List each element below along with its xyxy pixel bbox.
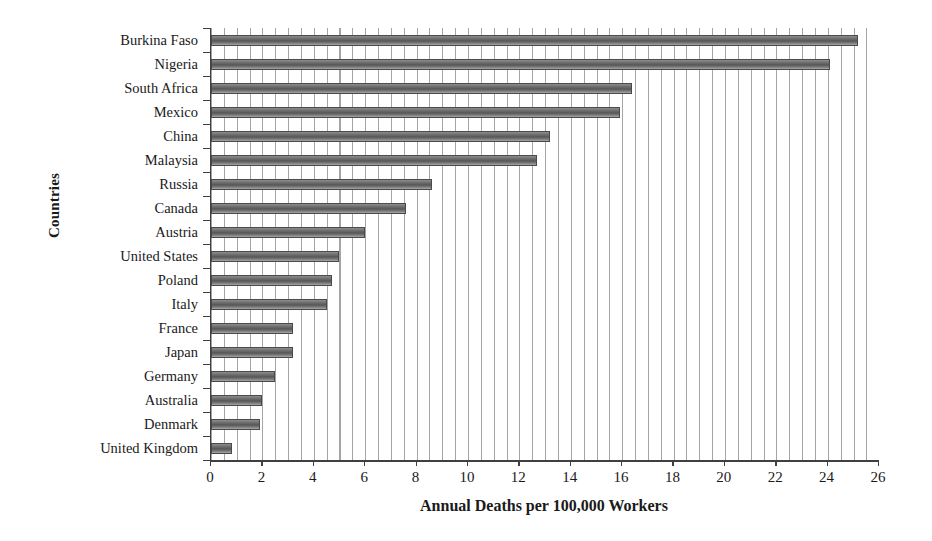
bar xyxy=(211,227,365,238)
y-axis-tick-label: China xyxy=(62,124,205,148)
bar xyxy=(211,275,332,286)
bar-row xyxy=(211,244,879,268)
y-axis-tick-label: Canada xyxy=(62,196,205,220)
y-axis-tick xyxy=(203,76,210,77)
bar-row xyxy=(211,100,879,124)
x-axis-tick-label: 6 xyxy=(360,467,368,487)
y-axis-tick xyxy=(203,436,210,437)
x-axis-tick xyxy=(775,460,776,466)
y-axis-tick-label: Australia xyxy=(62,388,205,412)
bar-row xyxy=(211,148,879,172)
y-axis-tick xyxy=(203,388,210,389)
bar xyxy=(211,155,537,166)
x-axis-tick-label: 20 xyxy=(716,467,731,487)
x-axis-tick xyxy=(827,460,828,466)
y-axis-tick-label: Nigeria xyxy=(62,52,205,76)
y-axis-ticks xyxy=(203,28,210,460)
y-axis-title: Countries xyxy=(46,126,63,286)
y-axis-tick xyxy=(203,220,210,221)
y-axis-tick xyxy=(203,412,210,413)
x-axis-tick-label: 2 xyxy=(258,467,266,487)
x-axis-tick xyxy=(570,460,571,466)
bar xyxy=(211,371,275,382)
y-axis-tick xyxy=(203,340,210,341)
bar-row xyxy=(211,364,879,388)
x-axis-tick xyxy=(878,460,879,466)
y-axis-tick xyxy=(203,316,210,317)
x-axis-tick xyxy=(467,460,468,466)
y-axis-tick-label: Mexico xyxy=(62,100,205,124)
y-axis-tick-label: Denmark xyxy=(62,412,205,436)
y-axis-tick-label: Burkina Faso xyxy=(62,28,205,52)
bar-chart: Countries Burkina FasoNigeriaSouth Afric… xyxy=(0,0,932,541)
y-axis-tick-labels: Burkina FasoNigeriaSouth AfricaMexicoChi… xyxy=(62,28,205,460)
bar-row xyxy=(211,172,879,196)
y-axis-tick-label: France xyxy=(62,316,205,340)
y-axis-tick xyxy=(203,172,210,173)
x-axis-tick xyxy=(621,460,622,466)
bar-row xyxy=(211,292,879,316)
y-axis-tick xyxy=(203,292,210,293)
bar xyxy=(211,203,406,214)
bar xyxy=(211,395,262,406)
bar xyxy=(211,251,339,262)
x-axis-tick xyxy=(364,460,365,466)
bar xyxy=(211,347,293,358)
y-axis-tick-label: South Africa xyxy=(62,76,205,100)
x-axis-tick-label: 14 xyxy=(562,467,577,487)
bar xyxy=(211,35,858,46)
bar-row xyxy=(211,124,879,148)
bar-row xyxy=(211,220,879,244)
y-axis-tick-label: Russia xyxy=(62,172,205,196)
bar-row xyxy=(211,28,879,52)
x-axis-tick-label: 12 xyxy=(511,467,526,487)
y-axis-tick xyxy=(203,196,210,197)
x-axis-tick xyxy=(518,460,519,466)
y-axis-tick-label: United Kingdom xyxy=(62,436,205,460)
bar xyxy=(211,107,620,118)
x-axis-tick-label: 4 xyxy=(309,467,317,487)
bar-row xyxy=(211,52,879,76)
y-axis-tick xyxy=(203,124,210,125)
bar-row xyxy=(211,76,879,100)
bar-row xyxy=(211,268,879,292)
x-axis-tick-label: 18 xyxy=(665,467,680,487)
bar xyxy=(211,443,232,454)
y-axis-tick-label: Japan xyxy=(62,340,205,364)
x-axis-tick-label: 22 xyxy=(768,467,783,487)
y-axis-tick xyxy=(203,52,210,53)
x-axis-tick-label: 0 xyxy=(206,467,214,487)
y-axis-tick xyxy=(203,460,210,461)
y-axis-tick-label: Germany xyxy=(62,364,205,388)
y-axis-tick-label: Italy xyxy=(62,292,205,316)
bar xyxy=(211,299,327,310)
y-axis-tick xyxy=(203,268,210,269)
x-axis-tick-label: 8 xyxy=(412,467,420,487)
x-axis-tick-label: 16 xyxy=(614,467,629,487)
bar xyxy=(211,131,550,142)
bar-series xyxy=(211,28,879,460)
x-axis-tick-label: 24 xyxy=(819,467,834,487)
y-axis-tick-label: Poland xyxy=(62,268,205,292)
bar-row xyxy=(211,316,879,340)
bar xyxy=(211,59,830,70)
bar-row xyxy=(211,436,879,460)
y-axis-tick xyxy=(203,148,210,149)
x-axis-tick xyxy=(724,460,725,466)
x-axis-tick xyxy=(210,460,211,466)
bar-row xyxy=(211,196,879,220)
x-axis-tick-labels: 02468101214161820222426 xyxy=(210,467,878,489)
x-axis-tick xyxy=(261,460,262,466)
y-axis-tick-label: United States xyxy=(62,244,205,268)
bar xyxy=(211,83,632,94)
y-axis-tick xyxy=(203,100,210,101)
x-axis-tick xyxy=(416,460,417,466)
y-axis-tick xyxy=(203,244,210,245)
x-axis-tick xyxy=(672,460,673,466)
plot-area xyxy=(210,28,879,460)
x-axis-tick-label: 26 xyxy=(871,467,886,487)
bar-row xyxy=(211,340,879,364)
bar xyxy=(211,419,260,430)
x-axis-ticks xyxy=(210,460,878,467)
y-axis-tick xyxy=(203,364,210,365)
